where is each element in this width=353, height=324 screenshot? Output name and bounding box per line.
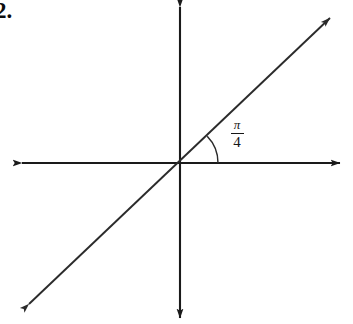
problem-number-label: 2. [0,0,12,22]
figure-canvas: 2. π 4 [0,0,353,324]
angle-denominator: 4 [224,135,250,151]
angle-arc [207,136,218,163]
angle-measure-label: π 4 [224,118,250,150]
angle-numerator: π [224,118,250,132]
coordinate-diagram [0,0,353,324]
